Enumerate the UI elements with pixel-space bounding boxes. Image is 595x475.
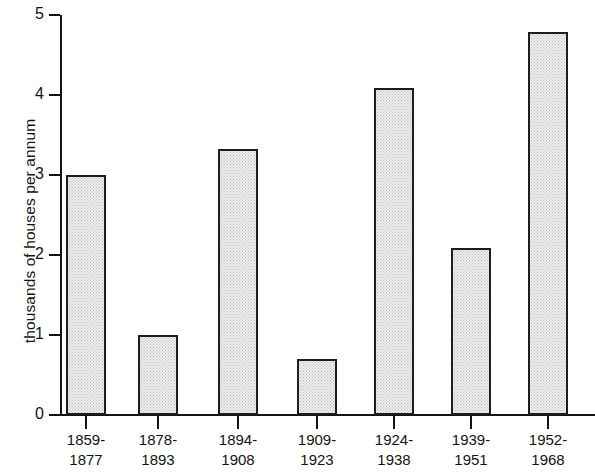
- y-axis-tick-mark: [49, 334, 60, 336]
- x-axis-tick-label-line: 1893: [116, 450, 200, 470]
- bar: [374, 88, 414, 415]
- x-axis-tick-label-line: 1924-: [352, 430, 436, 450]
- x-axis-tick-label: 1939-1951: [429, 430, 513, 470]
- x-axis-tick-mark: [237, 416, 239, 429]
- x-axis-tick-mark: [470, 416, 472, 429]
- x-axis-tick-label-line: 1894-: [196, 430, 280, 450]
- x-axis-tick-label-line: 1938: [352, 450, 436, 470]
- x-axis-tick-mark: [316, 416, 318, 429]
- y-axis-tick-label: 1: [18, 326, 44, 342]
- x-axis-tick-label-line: 1968: [506, 450, 590, 470]
- y-axis-tick-mark: [49, 414, 60, 416]
- x-axis-tick-mark: [547, 416, 549, 429]
- x-axis-tick-mark: [85, 416, 87, 429]
- y-axis-tick-label: 5: [18, 6, 44, 22]
- y-axis-tick-label: 2: [18, 246, 44, 262]
- y-axis-tick-label: 0: [18, 406, 44, 422]
- x-axis-tick-mark: [393, 416, 395, 429]
- x-axis-tick-label: 1909-1923: [275, 430, 359, 470]
- x-axis-tick-label-line: 1952-: [506, 430, 590, 450]
- y-axis-tick-mark: [49, 174, 60, 176]
- y-axis-tick-mark: [49, 14, 60, 16]
- bar: [297, 359, 337, 415]
- bar: [451, 248, 491, 415]
- x-axis-tick-label-line: 1923: [275, 450, 359, 470]
- y-axis-tick-mark: [49, 254, 60, 256]
- x-axis-tick-label: 1924-1938: [352, 430, 436, 470]
- bar-chart: thousands of houses per annum 012345 185…: [0, 0, 595, 475]
- x-axis-tick-label-line: 1908: [196, 450, 280, 470]
- x-axis-tick-label-line: 1951: [429, 450, 513, 470]
- y-axis-line: [60, 15, 62, 416]
- x-axis-tick-label-line: 1939-: [429, 430, 513, 450]
- y-axis-tick-label: 4: [18, 86, 44, 102]
- bar: [218, 149, 258, 415]
- y-axis-tick-label: 3: [18, 166, 44, 182]
- x-axis-tick-label: 1952-1968: [506, 430, 590, 470]
- y-axis-title: thousands of houses per annum: [21, 61, 39, 401]
- x-axis-tick-mark: [157, 416, 159, 429]
- y-axis-tick-mark: [49, 94, 60, 96]
- bar: [66, 175, 106, 415]
- x-axis-tick-label-line: 1878-: [116, 430, 200, 450]
- x-axis-tick-label: 1878-1893: [116, 430, 200, 470]
- x-axis-tick-label: 1894-1908: [196, 430, 280, 470]
- bar: [138, 335, 178, 415]
- bar: [528, 32, 568, 415]
- x-axis-tick-label-line: 1909-: [275, 430, 359, 450]
